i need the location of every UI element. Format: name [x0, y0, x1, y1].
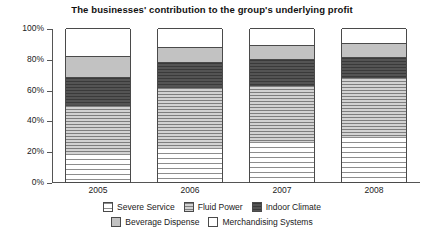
plot-area: 100%80%60%40%20%0% — [0, 0, 424, 196]
legend-item-severe[interactable]: Severe Service — [103, 202, 175, 212]
bar-segment-severe[interactable] — [250, 142, 314, 182]
legend-item-merch[interactable]: Merchandising Systems — [208, 217, 312, 227]
bar-segment-severe[interactable] — [66, 154, 130, 182]
bar-segment-fluid[interactable] — [158, 87, 222, 149]
legend-label: Severe Service — [117, 202, 175, 212]
legend-label: Fluid Power — [198, 202, 243, 212]
legend-item-indoor[interactable]: Indoor Climate — [252, 202, 321, 212]
legend-row-bottom: Beverage DispenseMerchandising Systems — [0, 214, 424, 229]
bar-segment-beverage[interactable] — [250, 45, 314, 59]
bar-segment-severe[interactable] — [342, 137, 406, 182]
y-tick-label: 0% — [32, 177, 44, 187]
legend-label: Merchandising Systems — [222, 217, 312, 227]
bar-segment-merch[interactable] — [158, 28, 222, 46]
legend-swatch-icon — [252, 202, 262, 212]
x-axis-label: 2005 — [52, 185, 144, 195]
x-axis-label: 2008 — [328, 185, 420, 195]
bar-slot — [65, 29, 131, 183]
stacked-bar[interactable] — [249, 29, 315, 183]
bar-segment-merch[interactable] — [342, 28, 406, 43]
stacked-bar[interactable] — [65, 29, 131, 183]
legend-row-top: Severe ServiceFluid PowerIndoor Climate — [0, 199, 424, 214]
bar-segment-indoor[interactable] — [66, 77, 130, 105]
bar-slot — [157, 29, 223, 183]
stacked-bar[interactable] — [157, 29, 223, 183]
chart-container: The businesses' contribution to the grou… — [0, 0, 424, 246]
legend-swatch-icon — [111, 217, 121, 227]
bar-slot — [341, 29, 407, 183]
x-axis-labels: 2005200620072008 — [52, 185, 420, 199]
legend-item-fluid[interactable]: Fluid Power — [184, 202, 243, 212]
legend-swatch-icon — [208, 217, 218, 227]
y-tick-label: 100% — [22, 23, 44, 33]
x-axis-label: 2007 — [236, 185, 328, 195]
bar-segment-merch[interactable] — [66, 28, 130, 56]
bar-segment-merch[interactable] — [250, 28, 314, 45]
x-axis-label: 2006 — [144, 185, 236, 195]
bar-segment-beverage[interactable] — [158, 47, 222, 62]
legend-label: Indoor Climate — [266, 202, 321, 212]
legend-label: Beverage Dispense — [125, 217, 199, 227]
y-tick-label: 40% — [27, 115, 44, 125]
chart-legend: Severe ServiceFluid PowerIndoor Climate … — [0, 199, 424, 243]
bar-segment-indoor[interactable] — [250, 59, 314, 85]
bar-segment-fluid[interactable] — [66, 105, 130, 154]
stacked-bar[interactable] — [341, 29, 407, 183]
y-tick-label: 60% — [27, 85, 44, 95]
legend-swatch-icon — [103, 202, 113, 212]
bar-segment-beverage[interactable] — [342, 43, 406, 57]
bar-segment-indoor[interactable] — [158, 62, 222, 87]
bar-segment-severe[interactable] — [158, 148, 222, 182]
legend-item-beverage[interactable]: Beverage Dispense — [111, 217, 199, 227]
bar-slot — [249, 29, 315, 183]
bar-segment-indoor[interactable] — [342, 57, 406, 77]
y-tick-label: 20% — [27, 146, 44, 156]
bar-segment-beverage[interactable] — [66, 56, 130, 78]
bar-series-layer — [52, 29, 420, 183]
y-tick-label: 80% — [27, 54, 44, 64]
bar-segment-fluid[interactable] — [250, 85, 314, 142]
bar-segment-fluid[interactable] — [342, 77, 406, 137]
y-tick-mark — [47, 183, 52, 184]
legend-swatch-icon — [184, 202, 194, 212]
